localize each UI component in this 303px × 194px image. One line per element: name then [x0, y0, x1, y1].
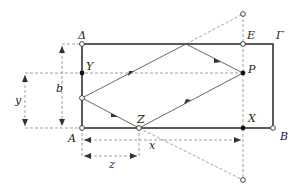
label-e: E — [246, 29, 255, 42]
label-x-dim: x — [149, 139, 156, 152]
label-x-point: X — [247, 112, 257, 125]
label-z-point: Z — [136, 113, 145, 126]
point-reflect-bottom — [241, 178, 246, 183]
billiard-diagram: Δ E Γ Y P A Z X B b y x z — [0, 0, 303, 194]
diagram-canvas: Δ E Γ Y P A Z X B b y x z — [0, 0, 303, 194]
label-p: P — [247, 63, 256, 76]
point-reflect-top — [241, 12, 246, 17]
point-a — [80, 126, 85, 131]
label-y-dim: y — [14, 94, 22, 107]
dimension-arrowheads — [22, 46, 241, 159]
label-z-dim: z — [108, 158, 115, 171]
point-y — [80, 71, 85, 76]
point-left-bounce — [80, 96, 85, 101]
trajectory-arrowheads — [111, 58, 221, 117]
label-delta: Δ — [77, 29, 86, 42]
point-p — [241, 71, 246, 76]
table-frame — [82, 44, 273, 128]
label-y-point: Y — [86, 60, 95, 73]
point-x — [241, 126, 246, 131]
label-gamma: Γ — [275, 29, 284, 42]
point-delta — [80, 42, 85, 47]
label-a: A — [67, 132, 76, 145]
point-e — [241, 42, 246, 47]
label-b-dim: b — [56, 82, 63, 95]
label-b: B — [279, 130, 288, 143]
point-z — [137, 126, 142, 131]
point-b — [271, 126, 276, 131]
trajectory — [82, 44, 243, 128]
